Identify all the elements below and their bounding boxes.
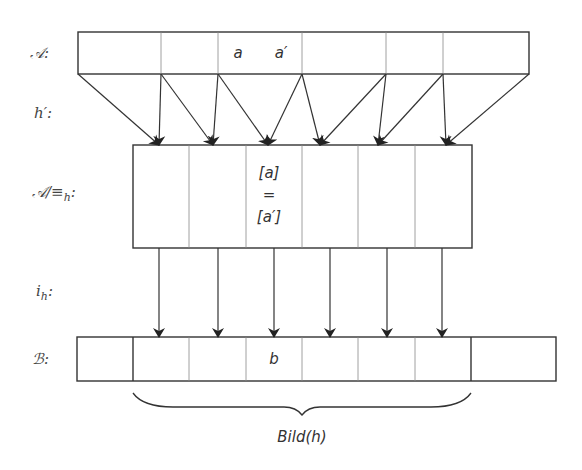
set-A-box [78,32,529,74]
element-a-prime: a′ [272,44,290,62]
h-prime-arrow [446,74,529,145]
i-h-arrows [159,248,442,337]
image-label: Bild(h) [252,428,352,446]
element-b: b [267,350,281,368]
image-brace [133,393,471,415]
label-quotient-sub: h [64,191,71,204]
label-i-suffix: : [48,282,53,300]
label-i-h: ih: [36,282,53,303]
h-prime-arrow [302,74,320,145]
h-prime-arrow [268,74,302,145]
label-i-sub: h [41,290,48,303]
h-prime-arrows [78,74,529,145]
label-set-A: 𝒜: [30,44,49,62]
class-a-prime: [a′] [252,208,286,226]
homomorphism-factorization-diagram [0,0,582,470]
label-quotient-prefix: 𝒜/≡ [32,183,64,201]
class-equals: = [254,186,284,204]
h-prime-arrow [161,74,213,145]
label-set-B: ℬ: [32,350,49,368]
label-quotient-suffix: : [71,183,76,201]
quotient-box [133,145,472,248]
quotient-border [133,145,472,248]
h-prime-arrow [159,74,161,145]
h-prime-arrow [320,74,386,145]
curly-brace [133,393,471,415]
set-B-box [77,337,556,381]
element-a: a [231,44,245,62]
label-quotient: 𝒜/≡h: [32,183,76,204]
h-prime-arrow [213,74,218,145]
h-prime-arrow [378,74,443,145]
h-prime-arrow [378,74,386,145]
set-A-border [78,32,529,74]
label-h-prime: h′: [34,104,52,122]
class-a: [a] [254,164,284,182]
h-prime-arrow [78,74,159,145]
h-prime-arrow [218,74,268,145]
h-prime-arrow [443,74,446,145]
set-B-border [77,337,556,381]
